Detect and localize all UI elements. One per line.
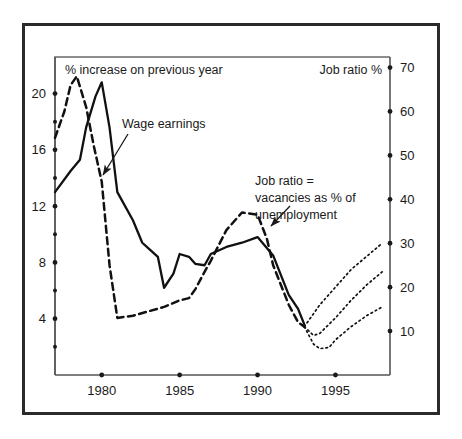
y-tick-label-left: 4 xyxy=(39,311,46,326)
x-tick-label: 1980 xyxy=(87,383,116,398)
job-ratio-label-line3: unemployment xyxy=(255,208,338,222)
y-tick-label-right: 70 xyxy=(400,60,414,75)
y-tick-label-right: 60 xyxy=(400,104,414,119)
x-tick-label: 1990 xyxy=(243,383,272,398)
y-tick-label-right: 40 xyxy=(400,192,414,207)
job-ratio-label-line2: vacancies as % of xyxy=(255,191,356,205)
x-tick-label: 1985 xyxy=(165,383,194,398)
chart-figure: 48121620 10203040506070 1980198519901995… xyxy=(0,0,462,439)
annotation-job-ratio: Job ratio = vacancies as % of unemployme… xyxy=(255,174,356,226)
y-axis-left-ticks: 48121620 xyxy=(32,86,58,349)
y-tick-label-right: 20 xyxy=(400,280,414,295)
left-axis-caption: % increase on previous year xyxy=(65,63,223,77)
y-tick-label-right: 30 xyxy=(400,236,414,251)
job-ratio-label-line1: Job ratio = xyxy=(255,174,314,188)
y-tick-label-right: 50 xyxy=(400,148,414,163)
annotation-wage-earnings: Wage earnings xyxy=(103,117,206,175)
series-line xyxy=(304,307,382,349)
chart-plot-area: 48121620 10203040506070 1980198519901995… xyxy=(0,0,462,439)
y-axis-right-ticks: 10203040506070 xyxy=(388,60,415,339)
series-line xyxy=(304,272,382,336)
x-axis-ticks: 1980198519901995 xyxy=(87,373,350,398)
y-tick-label-left: 8 xyxy=(39,255,46,270)
y-tick-label-right: 10 xyxy=(400,324,414,339)
x-tick-label: 1995 xyxy=(321,383,350,398)
series-line xyxy=(304,243,382,326)
y-tick-label-left: 12 xyxy=(32,199,46,214)
y-tick-label-left: 16 xyxy=(32,142,46,157)
wage-earnings-label: Wage earnings xyxy=(122,117,206,131)
right-axis-caption: Job ratio % xyxy=(319,63,382,77)
y-tick-label-left: 20 xyxy=(32,86,46,101)
